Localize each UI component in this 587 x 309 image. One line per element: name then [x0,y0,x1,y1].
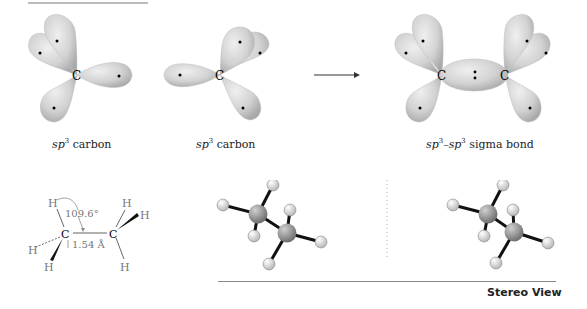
svg-text:C: C [500,69,509,83]
ethane-model-left [217,180,327,270]
caption-sp3-carbon-left: sp3 carbon [52,137,111,151]
ethane-structure: H C C H H H H H 109.6° 1.54 Å [20,190,170,290]
svg-text:C: C [437,69,446,83]
sp3-carbon-left: C [29,14,132,122]
svg-text:H: H [122,197,132,210]
stereo-view-label: Stereo View [487,286,562,299]
caption-sp3-carbon-middle: sp3 carbon [196,137,255,151]
svg-text:H: H [28,244,38,257]
bond-length-label: 1.54 Å [72,239,105,250]
stereo-view-models [200,180,587,280]
carbon-label: C [61,228,69,241]
ethane-model-right [447,180,554,269]
sp3-carbon-middle: C [164,27,269,120]
stereo-rule [218,281,556,282]
sp3-sp3-sigma-bond: C C [395,14,550,122]
caption-sigma-bond: sp3–sp3 sigma bond [426,137,534,151]
svg-text:H: H [44,261,54,274]
reaction-arrow [314,72,360,78]
bond-angle-label: 109.6° [65,208,99,219]
hydrogen-label: H [48,197,58,210]
svg-text:H: H [140,209,150,222]
svg-text:C: C [215,69,224,83]
atom-label-c: C [72,69,81,83]
svg-text:H: H [120,261,130,274]
